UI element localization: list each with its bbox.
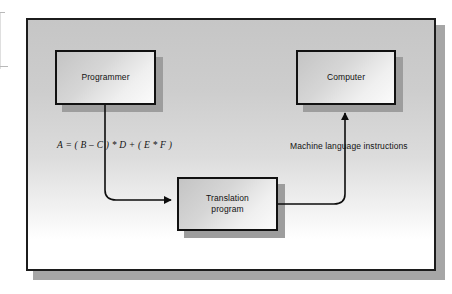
formula-annotation: A = ( B – C ) * D + ( E * F ) [57, 140, 172, 150]
node-programmer-label: Programmer [81, 72, 129, 83]
node-programmer[interactable]: Programmer [55, 50, 156, 105]
scan-artifact-mark [0, 13, 1, 69]
node-translation-label-line1: Translation [206, 193, 249, 203]
figure-canvas: Programmer Computer Translation program … [0, 0, 452, 294]
machine-language-instructions-annotation: Machine language instructions [290, 141, 408, 151]
node-translation-label: Translation program [206, 193, 249, 215]
node-translation-program[interactable]: Translation program [177, 177, 278, 231]
scan-artifact-mark [0, 66, 8, 67]
node-computer-label: Computer [327, 72, 365, 83]
node-computer[interactable]: Computer [296, 50, 396, 105]
node-translation-label-line2: program [211, 204, 243, 214]
